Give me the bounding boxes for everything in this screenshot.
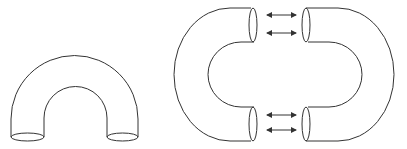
left-c-inner-wall (208, 42, 254, 107)
u-tube-inner-wall (44, 87, 107, 137)
u-tube-figure (11, 56, 138, 141)
connection-arrows (267, 15, 296, 130)
u-tube-right-opening (107, 133, 138, 141)
right-c-outer-wall (306, 8, 394, 141)
left-c-top-opening (249, 8, 257, 42)
left-c-bottom-opening (249, 107, 257, 141)
tube-diagram (0, 0, 407, 149)
left-c-outer-wall (174, 8, 251, 141)
right-c-half-figure (302, 8, 394, 141)
right-c-inner-wall (308, 42, 362, 107)
left-c-half-figure (174, 8, 257, 141)
u-tube-left-opening (11, 133, 44, 141)
u-tube-outer-wall (11, 56, 138, 137)
right-c-top-opening (302, 8, 310, 42)
right-c-bottom-opening (302, 107, 310, 141)
